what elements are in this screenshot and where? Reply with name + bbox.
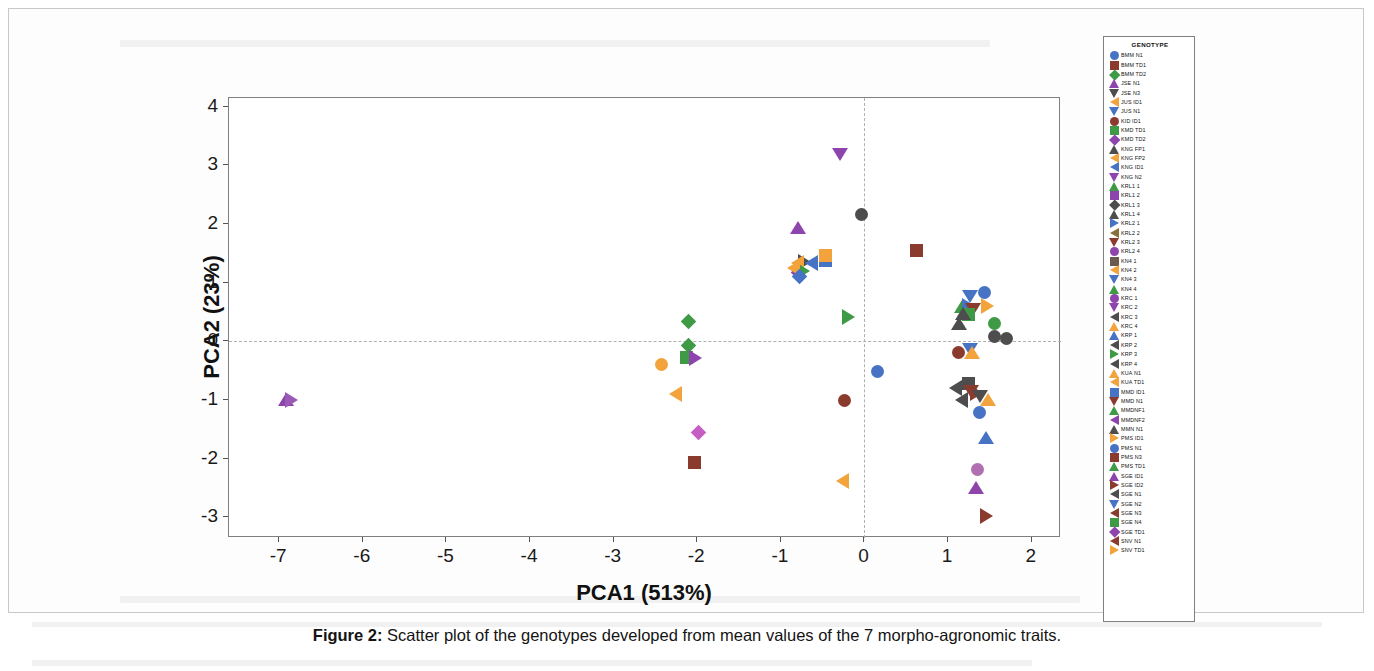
triangle-left-marker-icon: [669, 386, 682, 402]
legend-item[interactable]: MMDNF2: [1108, 415, 1195, 424]
circle-marker-icon: [1110, 247, 1119, 256]
legend-item[interactable]: PMS N1: [1108, 443, 1195, 452]
triangle-up-marker-icon: [968, 481, 984, 494]
legend-item[interactable]: SNV TD1: [1108, 546, 1195, 555]
legend-item[interactable]: KRL2 1: [1108, 219, 1195, 228]
diamond-marker-icon: [680, 314, 696, 330]
legend-item[interactable]: PMS N3: [1108, 453, 1195, 462]
legend-item-label: KRP 2: [1121, 341, 1137, 350]
legend-item[interactable]: SGE ID1: [1108, 471, 1195, 480]
legend-item-label: KMD TD2: [1121, 135, 1146, 144]
legend-item[interactable]: KRP 2: [1108, 341, 1195, 350]
legend-item[interactable]: KUA TD1: [1108, 378, 1195, 387]
legend-item[interactable]: BMM N1: [1108, 51, 1195, 60]
triangle-left-marker-icon: [1110, 312, 1119, 322]
legend-swatch: [1108, 79, 1121, 88]
legend-swatch: [1108, 397, 1121, 406]
legend-item[interactable]: KRC 1: [1108, 294, 1195, 303]
square-marker-icon: [688, 456, 701, 469]
legend-item[interactable]: KNG N2: [1108, 172, 1195, 181]
legend-item[interactable]: BMM TD2: [1108, 70, 1195, 79]
triangle-left-marker-icon: [1110, 97, 1119, 107]
legend-item[interactable]: KRL2 3: [1108, 238, 1195, 247]
legend-item[interactable]: JUS ID1: [1108, 98, 1195, 107]
legend-item[interactable]: MMN N1: [1108, 425, 1195, 434]
legend-item[interactable]: KRL2 4: [1108, 247, 1195, 256]
x-tick-label: -1: [771, 545, 788, 567]
legend-item[interactable]: SGE TD1: [1108, 528, 1195, 537]
legend-item[interactable]: KID ID1: [1108, 116, 1195, 125]
legend-item[interactable]: KMD TD2: [1108, 135, 1195, 144]
legend-item-label: KRL1 2: [1121, 191, 1140, 200]
legend-item[interactable]: JSE N1: [1108, 79, 1195, 88]
legend-item[interactable]: KRL2 2: [1108, 229, 1195, 238]
legend-item[interactable]: KN4 3: [1108, 275, 1195, 284]
legend-item-label: JSE N3: [1121, 89, 1140, 98]
circle-marker-icon: [971, 463, 984, 476]
legend-item[interactable]: JUS N1: [1108, 107, 1195, 116]
y-tick-label: -3: [201, 505, 218, 527]
legend-item[interactable]: SGE ID2: [1108, 481, 1195, 490]
legend-item[interactable]: BMM TD1: [1108, 60, 1195, 69]
legend-swatch: [1108, 453, 1121, 462]
legend-item[interactable]: SGE N4: [1108, 518, 1195, 527]
legend-item[interactable]: KRL1 2: [1108, 191, 1195, 200]
legend-item-label: KUA TD1: [1121, 378, 1144, 387]
legend-item[interactable]: KUA N1: [1108, 369, 1195, 378]
legend-item[interactable]: KNG ID1: [1108, 163, 1195, 172]
x-tick-mark: [362, 537, 363, 542]
x-tick-mark: [1031, 537, 1032, 542]
y-tick-mark: [223, 458, 228, 459]
legend-item[interactable]: KRL1 4: [1108, 210, 1195, 219]
y-tick-label: 1: [207, 271, 218, 293]
x-tick-mark: [613, 537, 614, 542]
plot-area: [228, 97, 1060, 537]
legend-item[interactable]: KNG FP1: [1108, 144, 1195, 153]
legend-swatch: [1108, 388, 1121, 397]
legend-item[interactable]: PMS TD1: [1108, 462, 1195, 471]
triangle-up-marker-icon: [1109, 182, 1119, 191]
legend-item[interactable]: KNG FP2: [1108, 154, 1195, 163]
legend-item[interactable]: KN4 1: [1108, 257, 1195, 266]
triangle-up-marker-icon: [1109, 462, 1119, 471]
legend-item[interactable]: KMD TD1: [1108, 126, 1195, 135]
legend-item[interactable]: MMD N1: [1108, 397, 1195, 406]
legend-item-label: KN4 4: [1121, 285, 1137, 294]
legend-swatch: [1108, 378, 1121, 387]
reference-line-horizontal: [229, 341, 1061, 342]
legend-item[interactable]: KRP 3: [1108, 350, 1195, 359]
triangle-right-marker-icon: [1110, 545, 1119, 555]
legend-item[interactable]: SGE N1: [1108, 490, 1195, 499]
legend-item[interactable]: JSE N3: [1108, 88, 1195, 97]
legend-item[interactable]: MMD ID1: [1108, 387, 1195, 396]
x-tick-mark: [278, 537, 279, 542]
legend-item[interactable]: KRL1 1: [1108, 182, 1195, 191]
triangle-left-marker-icon: [1110, 415, 1119, 425]
legend-item[interactable]: PMS ID1: [1108, 434, 1195, 443]
x-tick-mark: [445, 537, 446, 542]
legend-item[interactable]: KRP 1: [1108, 331, 1195, 340]
legend-item-label: PMS TD1: [1121, 462, 1145, 471]
legend-item[interactable]: MMDNF1: [1108, 406, 1195, 415]
legend-item[interactable]: SNV N1: [1108, 537, 1195, 546]
legend-item[interactable]: KRP 4: [1108, 359, 1195, 368]
legend-item[interactable]: SGE N3: [1108, 509, 1195, 518]
legend-item-label: KID ID1: [1121, 117, 1141, 126]
triangle-up-marker-icon: [790, 221, 806, 234]
legend-item[interactable]: KRL1 3: [1108, 201, 1195, 210]
legend-swatch: [1108, 238, 1121, 247]
legend-item[interactable]: KN4 4: [1108, 285, 1195, 294]
legend-panel[interactable]: GENOTYPE BMM N1BMM TD1BMM TD2JSE N1JSE N…: [1103, 36, 1195, 622]
legend-item-label: MMD N1: [1121, 397, 1143, 406]
legend-item[interactable]: KRC 3: [1108, 313, 1195, 322]
legend-item[interactable]: SGE N2: [1108, 500, 1195, 509]
legend-swatch: [1108, 434, 1121, 443]
legend-item[interactable]: KRC 2: [1108, 303, 1195, 312]
legend-item[interactable]: KN4 2: [1108, 266, 1195, 275]
y-tick-mark: [223, 164, 228, 165]
x-tick-label: 2: [1025, 545, 1036, 567]
circle-marker-icon: [988, 317, 1001, 330]
legend-items-list: BMM N1BMM TD1BMM TD2JSE N1JSE N3JUS ID1J…: [1108, 51, 1195, 556]
triangle-right-marker-icon: [1110, 433, 1119, 443]
legend-item[interactable]: KRC 4: [1108, 322, 1195, 331]
